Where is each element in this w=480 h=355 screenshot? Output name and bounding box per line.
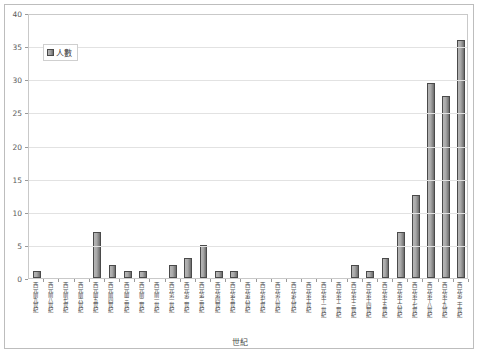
y-axis-tick-label: 35: [4, 43, 22, 52]
x-axis-tick-label: 西元前九世紀: [33, 282, 39, 312]
gridline: [29, 14, 468, 15]
gridline: [29, 147, 468, 148]
gridline: [29, 246, 468, 247]
bar-slot[interactable]: [90, 13, 105, 278]
y-axis-tick-label: 25: [4, 109, 22, 118]
x-axis-tick-mark: [468, 279, 469, 282]
bar-slot[interactable]: [439, 13, 454, 278]
bar[interactable]: [397, 232, 405, 278]
x-axis-tick-label: 西元第四世紀: [215, 282, 221, 312]
bar-slot[interactable]: [378, 13, 393, 278]
x-axis-tick-label: 西元前八世紀: [48, 282, 54, 312]
bar-slot[interactable]: [272, 13, 287, 278]
x-axis-title: 世紀: [0, 336, 480, 347]
x-axis-tick-label: 西元前五世紀: [93, 282, 99, 312]
y-axis-tick-label: 0: [4, 275, 22, 284]
x-axis-tick-label: 西元第十五世紀: [382, 282, 388, 317]
y-axis-tick-mark: [25, 147, 28, 148]
x-axis-tick-label: 西元第十三世紀: [351, 282, 357, 317]
bar[interactable]: [184, 258, 192, 278]
x-axis-tick-label: 西元前三世紀: [124, 282, 130, 312]
x-axis-tick-label: 西元第二世紀: [184, 282, 190, 312]
gridline: [29, 113, 468, 114]
x-axis-tick-label: 西元第一世紀: [169, 282, 175, 312]
bar[interactable]: [93, 232, 101, 278]
legend-swatch-icon: [47, 49, 54, 56]
x-axis-tick-label: 西元第十世紀: [306, 282, 312, 312]
bar-slot[interactable]: [211, 13, 226, 278]
bar-slot[interactable]: [181, 13, 196, 278]
plot-area: [28, 14, 468, 279]
bar[interactable]: [124, 271, 132, 278]
bar-slot[interactable]: [105, 13, 120, 278]
bar-slot[interactable]: [241, 13, 256, 278]
x-axis-tick-label: 西元前四世紀: [108, 282, 114, 312]
y-axis-tick-label: 30: [4, 76, 22, 85]
bar[interactable]: [230, 271, 238, 278]
y-axis-tick-mark: [25, 213, 28, 214]
x-axis-tick-label: 西元第五世紀: [230, 282, 236, 312]
bar[interactable]: [33, 271, 41, 278]
y-axis-tick-mark: [25, 14, 28, 15]
bar-slot[interactable]: [120, 13, 135, 278]
y-axis-tick-label: 5: [4, 242, 22, 251]
x-axis-tick-label: 西元第十七世紀: [412, 282, 418, 317]
bar-slot[interactable]: [332, 13, 347, 278]
bar[interactable]: [382, 258, 390, 278]
x-axis-tick-label: 西元第十四世紀: [366, 282, 372, 317]
bar-slot[interactable]: [257, 13, 272, 278]
gridline: [29, 80, 468, 81]
x-axis-tick-label: 西元第七世紀: [260, 282, 266, 312]
y-axis-tick-label: 20: [4, 143, 22, 152]
legend-label: 人數: [56, 47, 72, 58]
bar[interactable]: [169, 265, 177, 278]
bar-slot[interactable]: [287, 13, 302, 278]
bar-slot[interactable]: [363, 13, 378, 278]
bar[interactable]: [200, 245, 208, 278]
bar-slot[interactable]: [196, 13, 211, 278]
bar[interactable]: [366, 271, 374, 278]
gridline: [29, 47, 468, 48]
bar[interactable]: [412, 195, 420, 278]
x-axis-tick-label: 西元第十一世紀: [321, 282, 327, 317]
bar-slot[interactable]: [408, 13, 423, 278]
x-axis-tick-label: 西元第十二世紀: [336, 282, 342, 317]
bar-slot[interactable]: [226, 13, 241, 278]
bar[interactable]: [109, 265, 117, 278]
bar-slot[interactable]: [135, 13, 150, 278]
x-axis-tick-label: 西元第十六世紀: [397, 282, 403, 317]
bar-slot[interactable]: [166, 13, 181, 278]
y-axis-tick-mark: [25, 113, 28, 114]
x-axis-tick-label: 西元第十八世紀: [427, 282, 433, 317]
bar-chart: 0510152025303540 西元前九世紀西元前八世紀西元前七世紀西元前六世…: [0, 0, 480, 355]
y-axis-tick-mark: [25, 80, 28, 81]
y-axis-tick-label: 40: [4, 10, 22, 19]
bar-slot[interactable]: [317, 13, 332, 278]
bar-slot[interactable]: [348, 13, 363, 278]
x-axis-tick-label: 西元第六世紀: [245, 282, 251, 312]
bar[interactable]: [351, 265, 359, 278]
bar-slot[interactable]: [454, 13, 469, 278]
y-axis-tick-label: 10: [4, 209, 22, 218]
bar-slot[interactable]: [150, 13, 165, 278]
y-axis-tick-label: 15: [4, 176, 22, 185]
legend: 人數: [43, 44, 78, 61]
bar[interactable]: [139, 271, 147, 278]
x-axis-tick-label: 西元第三世紀: [199, 282, 205, 312]
bar-slot[interactable]: [29, 13, 44, 278]
bar-slot[interactable]: [423, 13, 438, 278]
x-axis-tick-label: 西元前七世紀: [63, 282, 69, 312]
bar[interactable]: [442, 96, 450, 278]
bar[interactable]: [215, 271, 223, 278]
x-axis-tick-label: 西元第十九世紀: [442, 282, 448, 317]
x-axis-tick-label: 西元前二世紀: [139, 282, 145, 312]
x-axis-labels: 西元前九世紀西元前八世紀西元前七世紀西元前六世紀西元前五世紀西元前四世紀西元前三…: [28, 282, 468, 334]
bar-slot[interactable]: [302, 13, 317, 278]
y-axis-tick-mark: [25, 279, 28, 280]
bar-slot[interactable]: [393, 13, 408, 278]
bar[interactable]: [457, 40, 465, 279]
x-axis-tick-label: 西元第九世紀: [291, 282, 297, 312]
x-axis-tick-label: 西元第八世紀: [275, 282, 281, 312]
x-axis-tick-label: 西元第二十世紀: [457, 282, 463, 317]
x-axis-tick-label: 西元前六世紀: [78, 282, 84, 312]
